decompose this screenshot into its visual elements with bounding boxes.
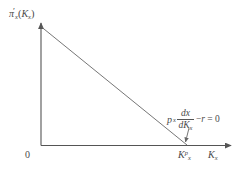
y-axis-label: π′x(Kx) [9, 7, 34, 20]
x-axis-label-base: K [208, 149, 215, 160]
y-axis-close-paren: ) [31, 8, 35, 19]
equation-value: 0 [215, 114, 220, 124]
fraction-numerator: dx [180, 109, 191, 119]
first-order-condition-annotation: px dx dKx −r = 0 [167, 108, 220, 132]
price-symbol: p [167, 115, 172, 125]
equals-sign: = [207, 114, 212, 124]
marginal-profit-line [42, 27, 188, 145]
interest-rate-symbol: r [201, 114, 205, 124]
derivative-fraction: dx dKx [177, 109, 194, 132]
kxp-subscript: x [188, 154, 191, 161]
price-subscript: x [173, 117, 176, 124]
x-axis-label: Kx [208, 150, 218, 161]
fraction-denominator: dKx [177, 120, 193, 131]
origin-label: 0 [25, 150, 30, 160]
x-axis-tick-label-kxp: Kpx [178, 150, 191, 162]
x-axis-label-subscript: x [215, 154, 218, 161]
equation-tail: −r = 0 [196, 115, 220, 125]
denominator-subscript: x [189, 123, 192, 130]
kxp-base: K [178, 149, 185, 160]
denominator-base: dK [178, 120, 189, 130]
economics-figure: π′x(Kx) 0 Kpx Kx px dx dKx −r = 0 [0, 0, 245, 178]
